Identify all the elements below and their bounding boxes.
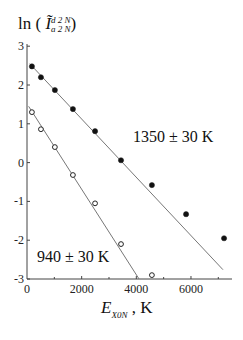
y-tick-label: 0 — [18, 156, 24, 170]
filled-data-point — [118, 158, 123, 163]
x-axis-label: EX0N , K — [101, 298, 152, 318]
open-data-point — [30, 110, 35, 115]
filled-data-point — [70, 106, 75, 111]
y-tick-label: -1 — [14, 194, 24, 208]
x-tick-label: 6000 — [179, 282, 203, 296]
filled-data-point — [29, 64, 34, 69]
filled-data-point — [92, 129, 97, 134]
open-data-point — [119, 242, 124, 247]
filled-data-point — [149, 183, 154, 188]
x-tick-label: 2000 — [70, 282, 94, 296]
open-data-point — [39, 127, 44, 132]
y-axis-label: ln ( Ĩd 2 Na 2 N) — [18, 14, 76, 34]
filled-data-point — [183, 212, 188, 217]
open-data-point — [93, 201, 98, 206]
open-data-point — [71, 173, 76, 178]
x-tick-label: 0 — [24, 282, 30, 296]
filled-data-point — [38, 75, 43, 80]
fit-line — [30, 64, 223, 270]
y-tick-label: -3 — [14, 272, 24, 286]
x-tick-label: 4000 — [124, 282, 148, 296]
y-tick-label: 2 — [18, 78, 24, 92]
annotation-1350k: 1350 ± 30 K — [133, 128, 213, 146]
open-data-point — [52, 145, 57, 150]
plot-area: 3210-1-2-30200040006000 — [0, 0, 243, 340]
y-tick-label: 3 — [18, 39, 24, 53]
y-tick-label: 1 — [18, 117, 24, 131]
open-data-point — [149, 273, 154, 278]
filled-data-point — [52, 87, 57, 92]
y-tick-label: -2 — [14, 233, 24, 247]
annotation-940k: 940 ± 30 K — [37, 248, 109, 266]
filled-data-point — [221, 236, 226, 241]
